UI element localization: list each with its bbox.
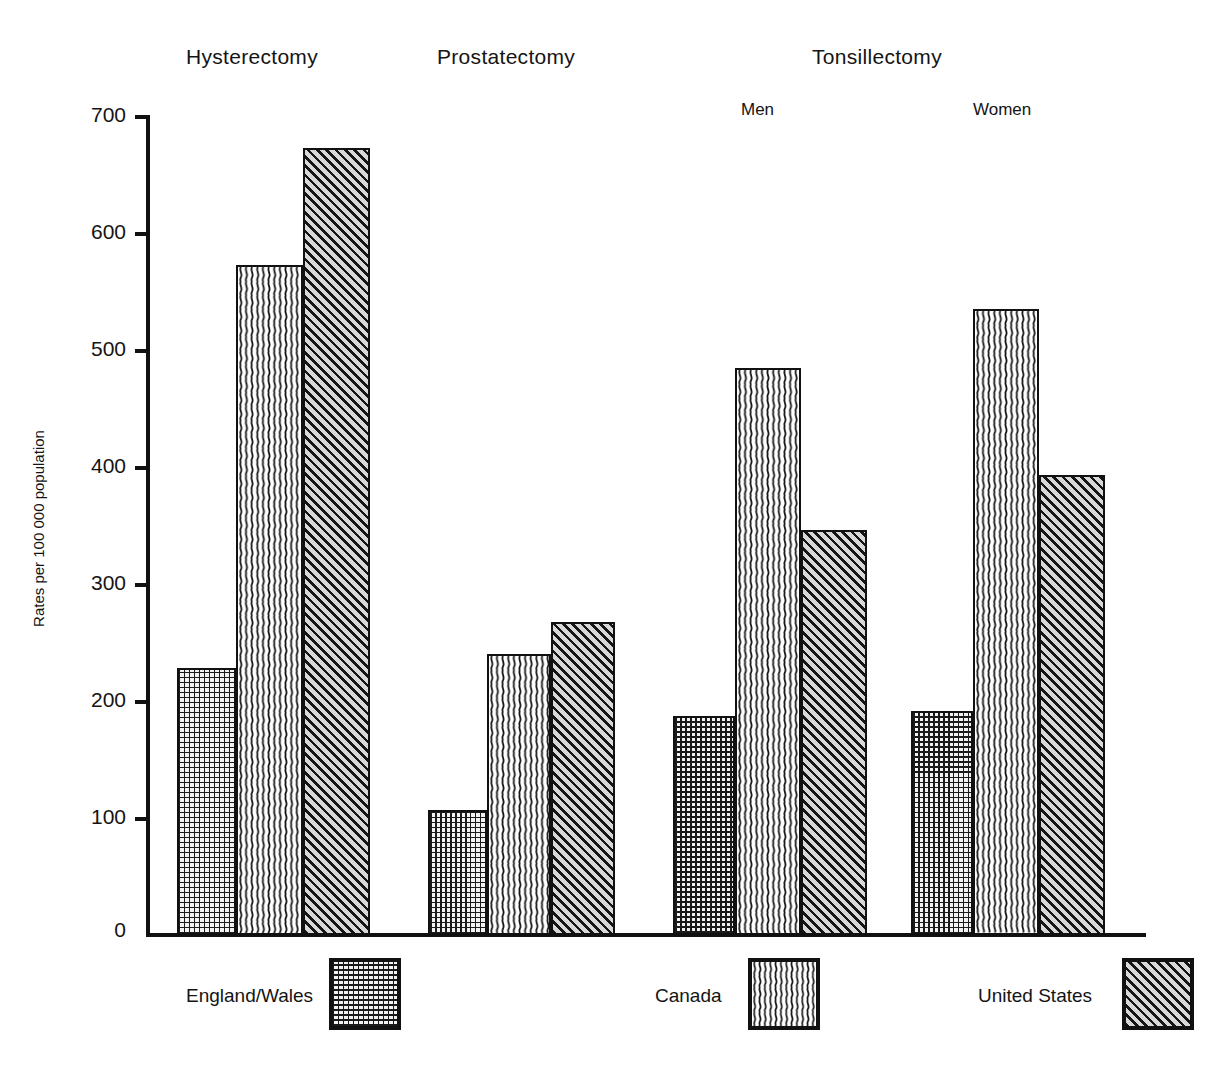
y-tick-500 — [135, 349, 146, 353]
y-tick-label-700: 700 — [56, 103, 126, 127]
y-tick-200 — [135, 700, 146, 704]
legend-label-canada: Canada — [655, 985, 722, 1007]
bar-hysterectomy-england-wales — [177, 668, 236, 935]
group-title-hysterectomy: Hysterectomy — [186, 45, 318, 69]
y-tick-label-600: 600 — [56, 220, 126, 244]
y-tick-400 — [135, 466, 146, 470]
group-title-prostatectomy: Prostatectomy — [437, 45, 575, 69]
bar-tonsillectomy-men-canada — [735, 368, 801, 935]
y-tick-label-400: 400 — [56, 454, 126, 478]
y-tick-label-500: 500 — [56, 337, 126, 361]
bar-tonsillectomy-women-canada — [973, 309, 1039, 935]
y-tick-300 — [135, 583, 146, 587]
wave-pattern — [737, 370, 799, 933]
bar-tonsillectomy-men-england-wales — [673, 716, 735, 935]
group-title-tonsillectomy: Tonsillectomy — [812, 45, 942, 69]
y-tick-600 — [135, 232, 146, 236]
y-tick-label-200: 200 — [56, 688, 126, 712]
y-tick-label-100: 100 — [56, 805, 126, 829]
group-subtitle-women: Women — [973, 100, 1031, 120]
legend-label-united-states: United States — [978, 985, 1092, 1007]
wave-pattern — [238, 267, 301, 933]
legend-swatch-england-wales — [329, 958, 401, 1030]
bar-prostatectomy-united-states — [551, 622, 615, 935]
wave-pattern — [975, 311, 1037, 933]
y-axis-title: Rates per 100 000 population — [30, 409, 47, 649]
y-axis-line — [146, 115, 150, 937]
bar-tonsillectomy-women-england-wales — [911, 711, 973, 935]
bar-hysterectomy-united-states — [303, 148, 370, 935]
bar-hysterectomy-canada — [236, 265, 303, 935]
legend-swatch-canada — [748, 958, 820, 1030]
y-tick-label-300: 300 — [56, 571, 126, 595]
bar-prostatectomy-england-wales — [428, 810, 487, 935]
wave-pattern — [752, 962, 816, 1026]
y-tick-100 — [135, 817, 146, 821]
bar-tonsillectomy-women-united-states — [1039, 475, 1105, 935]
y-tick-label-0: 0 — [56, 918, 126, 942]
legend-swatch-united-states — [1122, 958, 1194, 1030]
legend-label-england-wales: England/Wales — [186, 985, 313, 1007]
bar-tonsillectomy-men-united-states — [801, 530, 867, 935]
wave-pattern — [489, 656, 549, 933]
bar-prostatectomy-canada — [487, 654, 551, 935]
bar-chart: Hysterectomy Prostatectomy Tonsillectomy… — [0, 0, 1215, 1068]
group-subtitle-men: Men — [741, 100, 774, 120]
y-tick-700 — [135, 115, 146, 119]
